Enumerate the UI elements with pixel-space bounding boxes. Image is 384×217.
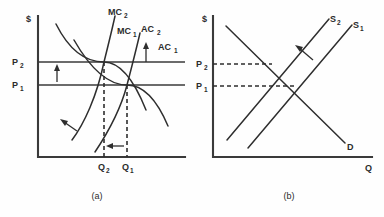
panel-a-quantity-label-q2: Q	[98, 162, 105, 172]
panel-b: $ Q S 2 S 1 D P 2 P 1	[196, 14, 372, 201]
curve-label-mc2: MC	[108, 7, 122, 17]
price-increase-arrow	[54, 64, 60, 82]
curve-label-ac2-sub: 2	[157, 29, 161, 36]
panel-a-price-label-p1: P	[12, 80, 18, 90]
curve-label-s2: S	[330, 14, 336, 24]
panel-b-caption: (b)	[284, 191, 295, 201]
panel-a-price-label-p2: P	[12, 57, 18, 67]
panel-a-quantity-label-q1-sub: 1	[130, 167, 134, 174]
panel-a-quantity-label-q1: Q	[122, 162, 129, 172]
curve-label-mc1: MC	[117, 26, 131, 36]
economics-figure: $ P 2 P 1 MC 2 MC 1 AC 2 AC	[0, 0, 384, 217]
panel-a-quantity-label-q2-sub: 2	[106, 167, 110, 174]
panel-a-caption: (a)	[92, 191, 103, 201]
curve-label-s2-sub: 2	[337, 19, 341, 26]
curve-label-ac1-sub: 1	[174, 47, 178, 54]
panel-b-y-axis-label: $	[202, 14, 207, 24]
figure-canvas: $ P 2 P 1 MC 2 MC 1 AC 2 AC	[0, 0, 384, 217]
curve-label-s1-sub: 1	[360, 25, 364, 32]
curve-label-mc1-sub: 1	[133, 31, 137, 38]
quantity-decrease-arrow	[106, 143, 124, 149]
curve-label-ac2: AC	[141, 24, 154, 34]
curve-label-ac1: AC	[158, 42, 171, 52]
panel-a-y-axis-label: $	[26, 14, 31, 24]
cost-curve-shift-arrow	[60, 119, 77, 131]
panel-b-price-label-p2: P	[196, 59, 202, 69]
panel-a-axes	[38, 16, 185, 157]
panel-a-price-label-p2-sub: 2	[20, 62, 24, 69]
curve-mc2	[72, 16, 115, 140]
curve-demand	[226, 26, 345, 143]
curve-label-demand: D	[347, 142, 354, 152]
panel-b-price-label-p1: P	[196, 81, 202, 91]
panel-a: $ P 2 P 1 MC 2 MC 1 AC 2 AC	[12, 7, 185, 201]
curve-label-s1: S	[353, 20, 359, 30]
panel-b-x-axis-label: Q	[365, 163, 372, 173]
panel-b-price-label-p2-sub: 2	[204, 64, 208, 71]
ac-shift-arrow	[143, 42, 149, 62]
panel-b-price-label-p1-sub: 1	[204, 86, 208, 93]
curve-mc1	[95, 33, 140, 152]
supply-shift-arrow	[295, 45, 313, 60]
curve-supply-2	[227, 19, 329, 140]
curve-label-mc2-sub: 2	[124, 12, 128, 19]
panel-a-price-label-p1-sub: 1	[20, 85, 24, 92]
